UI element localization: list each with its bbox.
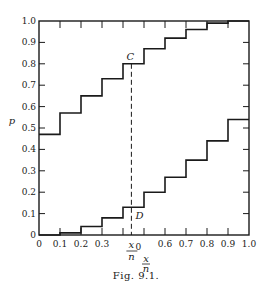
x-tick-label: 0.6 <box>158 239 173 249</box>
x-tick-label: 0.1 <box>53 239 67 249</box>
y-tick-label: 1.0 <box>22 16 37 26</box>
step-chart: 00.10.20.30.40.50.60.70.80.91.000.10.20.… <box>0 0 272 295</box>
y-tick-label: 0.4 <box>22 144 37 154</box>
x-tick-label: 0.3 <box>95 239 110 249</box>
x-tick-label: 0 <box>36 239 42 249</box>
y-tick-label: 0.2 <box>22 187 36 197</box>
x-tick-label: 1.0 <box>242 239 257 249</box>
series-lower-step-line <box>39 119 249 235</box>
point-c-label: C <box>127 51 135 62</box>
svg-text:n: n <box>128 251 134 262</box>
y-tick-label: 0.7 <box>22 80 37 90</box>
y-tick-label: 0.9 <box>22 37 37 47</box>
y-tick-label: 0.6 <box>22 102 37 112</box>
y-tick-label: 0.1 <box>22 209 36 219</box>
svg-text:x: x <box>129 239 135 250</box>
y-tick-label: 0.5 <box>22 123 37 133</box>
x-tick-label: 0.7 <box>179 239 194 249</box>
figure-caption: Fig. 9.1. <box>0 270 272 281</box>
x-tick-label: 0.8 <box>200 239 215 249</box>
y-tick-label: 0.3 <box>22 166 37 176</box>
y-tick-label: 0.8 <box>22 59 37 69</box>
x-tick-label: 0.9 <box>221 239 236 249</box>
step-series <box>39 21 249 235</box>
svg-text:0: 0 <box>135 242 141 252</box>
series-upper-step-line <box>39 21 249 134</box>
x-tick-label: 0.2 <box>74 239 88 249</box>
y-axis-label: p <box>9 115 16 126</box>
point-d-label: D <box>134 210 143 221</box>
x0-over-n-label: x0n <box>126 239 141 262</box>
